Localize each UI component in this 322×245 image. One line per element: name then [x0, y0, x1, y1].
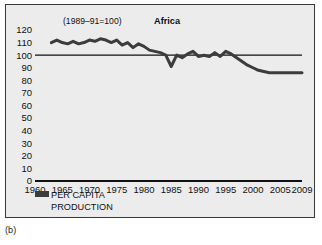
- y-axis-tick-labels: 0102030405060708090100110120: [16, 24, 32, 186]
- index-base-note: (1989–91=100): [63, 16, 122, 26]
- y-tick-label: 50: [21, 112, 32, 123]
- panel-title: Africa: [154, 16, 181, 26]
- y-tick-label: 30: [21, 138, 32, 149]
- y-tick-label: 60: [21, 100, 32, 111]
- figure-panel: (1989–91=100) Africa 0102030405060708090…: [0, 0, 322, 245]
- y-tick-label: 80: [21, 75, 32, 86]
- y-tick-label: 20: [21, 150, 32, 161]
- x-tick-label: 1980: [133, 184, 154, 195]
- y-tick-label: 40: [21, 125, 32, 136]
- legend-color-swatch: [35, 191, 49, 197]
- y-tick-label: 70: [21, 87, 32, 98]
- chart-frame: (1989–91=100) Africa 0102030405060708090…: [5, 4, 315, 218]
- y-tick-label: 90: [21, 62, 32, 73]
- x-tick-label: 1985: [161, 184, 182, 195]
- y-tick-label: 100: [16, 50, 32, 61]
- x-tick-label: 1995: [215, 184, 236, 195]
- per-capita-production-line-chart: (1989–91=100) Africa 0102030405060708090…: [6, 5, 314, 217]
- legend-label-line1: PER CAPITA: [51, 190, 106, 200]
- y-tick-label: 10: [21, 163, 32, 174]
- legend-label-line2: PRODUCTION: [51, 202, 113, 212]
- x-tick-label: 2009: [291, 184, 312, 195]
- y-tick-label: 120: [16, 24, 32, 35]
- x-tick-label: 2000: [242, 184, 263, 195]
- figure-caption: (b): [5, 225, 16, 235]
- x-tick-label: 1975: [106, 184, 127, 195]
- y-tick-label: 110: [17, 37, 32, 48]
- x-tick-label: 1990: [188, 184, 209, 195]
- x-tick-label: 2005: [270, 184, 291, 195]
